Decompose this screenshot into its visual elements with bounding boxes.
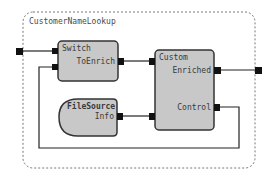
node-filesource[interactable]: FileSource Info	[59, 99, 117, 136]
node-switch-label: Switch	[62, 44, 91, 53]
port-external-output[interactable]	[255, 67, 262, 74]
container-title: CustomerNameLookup	[29, 17, 116, 26]
port-switch-in1[interactable]	[52, 48, 58, 54]
port-custom-enriched[interactable]	[214, 67, 221, 74]
port-filesource-info[interactable]	[117, 113, 123, 120]
port-control-label: Control	[177, 103, 211, 112]
port-custom-in2[interactable]	[149, 113, 155, 120]
port-custom-control[interactable]	[214, 104, 220, 111]
node-custom-label: Custom	[159, 53, 188, 62]
port-external-input[interactable]	[16, 48, 23, 55]
port-custom-in1[interactable]	[149, 58, 155, 65]
node-filesource-label: FileSource	[67, 101, 115, 111]
port-switch-toenrich[interactable]	[118, 58, 124, 65]
port-info-label: Info	[95, 112, 114, 121]
port-enriched-label: Enriched	[172, 66, 211, 75]
port-switch-in2[interactable]	[52, 64, 58, 70]
container-border	[23, 12, 255, 168]
port-toenrich-label: ToEnrich	[76, 57, 115, 66]
diagram-canvas: CustomerNameLookup Switch ToEnrich Custo…	[0, 0, 274, 178]
node-custom[interactable]: Custom Enriched Control	[155, 50, 214, 130]
node-switch[interactable]: Switch ToEnrich	[58, 41, 118, 81]
